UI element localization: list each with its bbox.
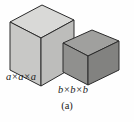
large-cube-label: a×a×a — [6, 72, 36, 83]
figure-container: a×a×a b×b×b (a) — [0, 0, 134, 122]
small-cube-label: b×b×b — [58, 85, 88, 96]
figure-caption: (a) — [0, 101, 134, 112]
